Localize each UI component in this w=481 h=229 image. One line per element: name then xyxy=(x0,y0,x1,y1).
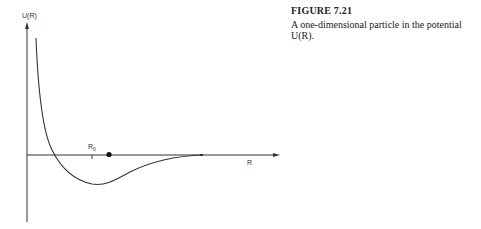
figure-caption: FIGURE 7.21 A one-dimensional particle i… xyxy=(291,5,481,41)
r0-label: R0 xyxy=(88,143,96,152)
x-axis-label: R xyxy=(247,159,252,166)
potential-curve xyxy=(36,38,203,185)
x-axis-arrow-icon xyxy=(273,153,280,157)
particle-dot xyxy=(106,152,111,157)
potential-diagram: U(R) R R0 xyxy=(0,0,290,229)
y-axis-label: U(R) xyxy=(22,12,37,20)
figure-caption-text: A one-dimensional particle in the potent… xyxy=(291,19,481,41)
figure-number: FIGURE 7.21 xyxy=(291,5,481,16)
y-axis-arrow-icon xyxy=(25,22,29,29)
